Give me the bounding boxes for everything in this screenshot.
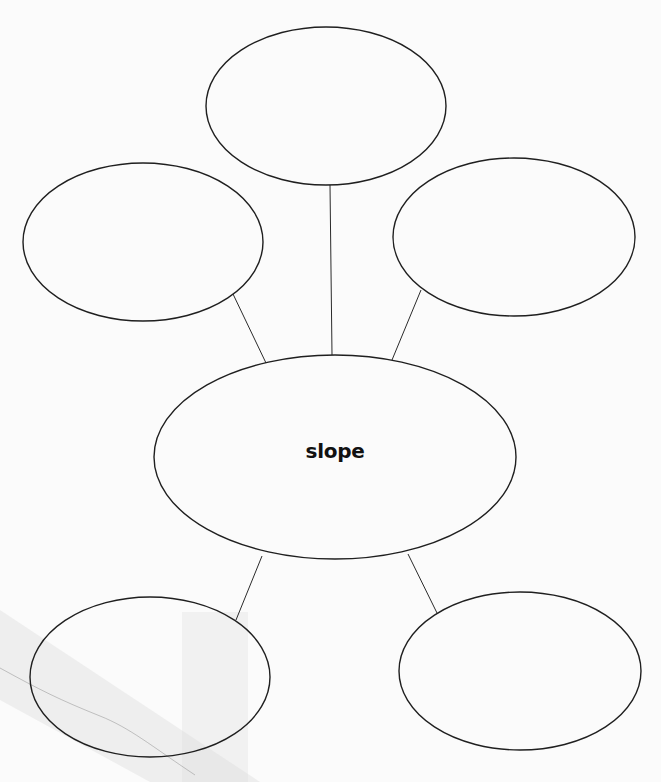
- node-ellipse-lower-right: [399, 592, 641, 750]
- outer-nodes: [23, 27, 641, 757]
- connector-lines: [233, 185, 437, 620]
- connector-line-lower-left: [236, 556, 262, 620]
- node-ellipse-upper-left: [23, 163, 263, 321]
- connector-line-upper-left: [233, 294, 266, 363]
- concept-map-diagram: [0, 0, 661, 782]
- node-ellipse-upper-right: [393, 158, 635, 316]
- node-ellipse-top: [206, 27, 446, 185]
- connector-line-upper-right: [392, 290, 421, 360]
- center-node-label: slope: [154, 439, 516, 463]
- concept-map-page: slope: [0, 0, 661, 782]
- connector-line-lower-right: [408, 554, 437, 613]
- connector-line-top: [330, 185, 332, 355]
